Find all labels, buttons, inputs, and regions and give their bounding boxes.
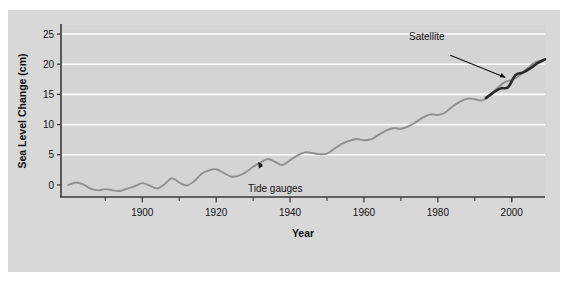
sea-level-chart: 0510152025190019201940196019802000Tide g… (0, 0, 568, 284)
x-tick-label-1980: 1980 (427, 207, 450, 218)
x-tick-label-1900: 1900 (131, 207, 154, 218)
x-tick-label-2000: 2000 (501, 207, 524, 218)
annotation-label-satellite: Satellite (409, 31, 445, 42)
y-tick-label-25: 25 (43, 29, 55, 40)
x-tick-label-1940: 1940 (279, 207, 302, 218)
y-axis-title: Sea Level Change (cm) (16, 54, 28, 169)
y-tick-label-0: 0 (48, 180, 54, 191)
x-tick-label-1960: 1960 (353, 207, 376, 218)
y-tick-label-20: 20 (43, 59, 55, 70)
y-tick-label-10: 10 (43, 119, 55, 130)
x-axis-title: Year (292, 227, 314, 239)
x-tick-label-1920: 1920 (205, 207, 228, 218)
plot-area-background (61, 25, 545, 197)
y-tick-label-5: 5 (48, 149, 54, 160)
annotation-label-tide-gauges: Tide gauges (248, 183, 303, 194)
y-tick-label-15: 15 (43, 89, 55, 100)
